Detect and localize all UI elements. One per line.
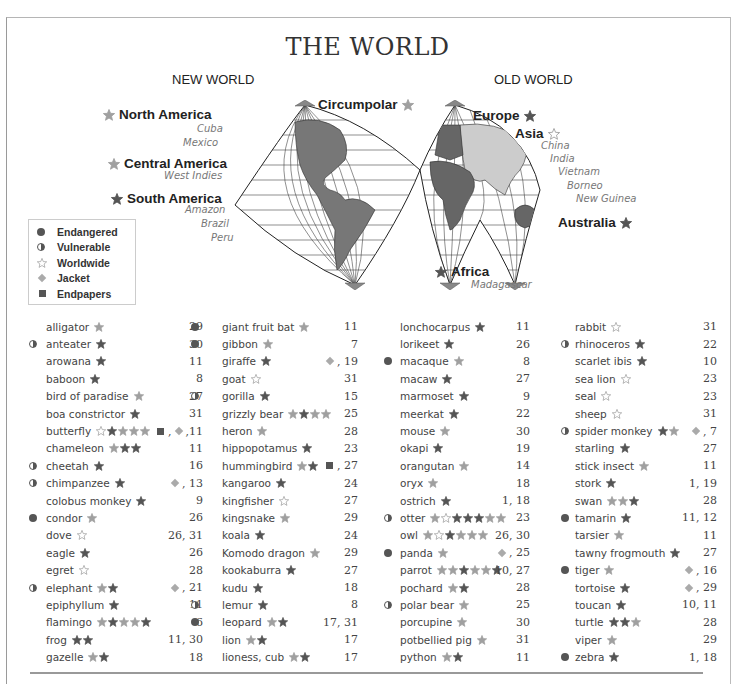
index-entry[interactable]: viper29 (560, 631, 717, 648)
index-entry[interactable]: egret28 (28, 561, 203, 578)
index-entry[interactable]: tamarin11, 12 (560, 509, 717, 526)
index-entry[interactable]: seal23 (560, 388, 717, 405)
index-entry[interactable]: cheetah16 (28, 457, 203, 474)
index-entry[interactable]: polar bear25 (383, 596, 530, 613)
region-stars (635, 339, 645, 349)
index-entry[interactable]: condor26 (28, 509, 203, 526)
index-entry[interactable]: elephant, 21 (28, 579, 203, 596)
index-entry[interactable]: kingfisher27 (190, 492, 358, 509)
index-entry[interactable]: lorikeet26 (383, 335, 530, 352)
index-entry[interactable]: marmoset9 (383, 388, 530, 405)
index-entry[interactable]: mouse30 (383, 422, 530, 439)
index-entry[interactable]: swan28 (560, 492, 717, 509)
index-entry[interactable]: epiphyllum11 (28, 596, 203, 613)
index-entry[interactable]: porcupine30 (383, 614, 530, 631)
index-entry[interactable]: turtle28 (560, 614, 717, 631)
index-entry[interactable]: boa constrictor31 (28, 405, 203, 422)
index-entry[interactable]: chameleon11 (28, 440, 203, 457)
animal-name: spider monkey (575, 425, 653, 437)
index-entry[interactable]: giraffe, 19 (190, 353, 358, 370)
page-numbers: 31 (344, 372, 358, 385)
animal-name: lorikeet (400, 338, 439, 350)
index-entry[interactable]: chimpanzee, 13 (28, 475, 203, 492)
index-entry[interactable]: spider monkey, 7 (560, 422, 717, 439)
index-entry[interactable]: grizzly bear25 (190, 405, 358, 422)
index-entry[interactable]: tawny frogmouth27 (560, 544, 717, 561)
index-entry[interactable]: toucan10, 11 (560, 596, 717, 613)
star-dark-icon (255, 530, 265, 540)
index-entry[interactable]: dove26, 31 (28, 527, 203, 544)
index-entry[interactable]: meerkat22 (383, 405, 530, 422)
index-entry[interactable]: kudu18 (190, 579, 358, 596)
animal-name: sea lion (575, 373, 616, 385)
index-entry[interactable]: lioness, cub17 (190, 648, 358, 665)
index-entry[interactable]: gibbon7 (190, 335, 358, 352)
region-stars (260, 391, 270, 401)
index-entry[interactable]: starling27 (560, 440, 717, 457)
index-entry[interactable]: Komodo dragon29 (190, 544, 358, 561)
region-label-central-america: Central America (108, 156, 227, 171)
index-entry[interactable]: tiger, 16 (560, 561, 717, 578)
index-entry[interactable]: rhinoceros22 (560, 335, 717, 352)
index-entry[interactable]: arowana11 (28, 353, 203, 370)
index-entry[interactable]: bird of paradise27 (28, 388, 203, 405)
index-entry[interactable]: hummingbird, 27 (190, 457, 358, 474)
index-entry[interactable]: scarlet ibis10 (560, 353, 717, 370)
page-number-text: 10, 11 (682, 598, 717, 611)
index-entry[interactable]: stick insect11 (560, 457, 717, 474)
index-entry[interactable]: heron28 (190, 422, 358, 439)
index-entry[interactable]: tortoise, 29 (560, 579, 717, 596)
index-entry[interactable]: tarsier11 (560, 527, 717, 544)
animal-name: okapi (400, 442, 428, 454)
endangered-dot-icon (561, 514, 569, 522)
page-numbers: 26 (516, 338, 530, 351)
page-numbers: 25 (344, 407, 358, 420)
animal-name: tawny frogmouth (575, 547, 665, 559)
page-number-text: 18 (516, 477, 530, 490)
index-entry[interactable]: baboon8 (28, 370, 203, 387)
index-entry[interactable]: lion17 (190, 631, 358, 648)
index-entry[interactable]: okapi19 (383, 440, 530, 457)
index-entry[interactable]: otter23 (383, 509, 530, 526)
index-entry[interactable]: flamingo6 (28, 614, 203, 631)
index-entry[interactable]: colobus monkey9 (28, 492, 203, 509)
index-entry[interactable]: kookaburra27 (190, 561, 358, 578)
index-entry[interactable]: python11 (383, 648, 530, 665)
animal-name: lion (222, 634, 241, 646)
index-entry[interactable]: alligator29 (28, 318, 203, 335)
legend: EndangeredVulnerableWorldwideJacketEndpa… (28, 219, 136, 305)
region-stars (430, 513, 506, 523)
index-entry[interactable]: sea lion23 (560, 370, 717, 387)
index-entry[interactable]: butterfly,,11 (28, 422, 203, 439)
index-entry[interactable]: potbellied pig31 (383, 631, 530, 648)
index-entry[interactable]: orangutan14 (383, 457, 530, 474)
index-entry[interactable]: macaque8 (383, 353, 530, 370)
index-entry[interactable]: eagle26 (28, 544, 203, 561)
region-stars (601, 391, 611, 401)
index-entry[interactable]: lemur8 (190, 596, 358, 613)
index-entry[interactable]: owl26, 30 (383, 527, 530, 544)
index-entry[interactable]: frog11, 30 (28, 631, 203, 648)
index-entry[interactable]: gorilla15 (190, 388, 358, 405)
index-entry[interactable]: panda, 25 (383, 544, 530, 561)
index-entry[interactable]: leopard17, 31 (190, 614, 358, 631)
star-light-icon (118, 426, 128, 436)
index-entry[interactable]: stork1, 19 (560, 475, 717, 492)
index-entry[interactable]: parrot10, 27 (383, 561, 530, 578)
index-entry[interactable]: goat31 (190, 370, 358, 387)
index-entry[interactable]: koala24 (190, 527, 358, 544)
index-entry[interactable]: zebra1, 18 (560, 648, 717, 665)
index-entry[interactable]: lonchocarpus11 (383, 318, 530, 335)
index-entry[interactable]: sheep31 (560, 405, 717, 422)
index-entry[interactable]: rabbit31 (560, 318, 717, 335)
index-entry[interactable]: ostrich1, 18 (383, 492, 530, 509)
index-entry[interactable]: hippopotamus23 (190, 440, 358, 457)
index-entry[interactable]: oryx18 (383, 475, 530, 492)
index-entry[interactable]: pochard28 (383, 579, 530, 596)
index-entry[interactable]: gazelle18 (28, 648, 203, 665)
index-entry[interactable]: kingsnake29 (190, 509, 358, 526)
index-entry[interactable]: macaw27 (383, 370, 530, 387)
index-entry[interactable]: giant fruit bat11 (190, 318, 358, 335)
index-entry[interactable]: anteater30 (28, 335, 203, 352)
index-entry[interactable]: kangaroo24 (190, 475, 358, 492)
